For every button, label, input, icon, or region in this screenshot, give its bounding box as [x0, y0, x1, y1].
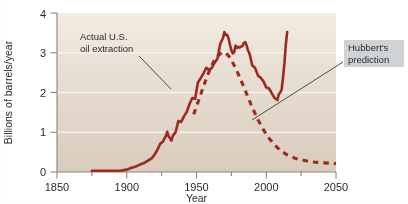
- x-tick-label: 2050: [324, 181, 348, 193]
- y-tick-label: 3: [40, 47, 46, 59]
- x-tick-label: 1900: [115, 181, 139, 193]
- oil-extraction-chart: 0 1 2 3 4 1850 1900 1950 2000 2050 Year …: [0, 0, 408, 204]
- y-tick-label: 4: [40, 8, 46, 20]
- x-tick-label: 1850: [45, 181, 69, 193]
- y-tick-label: 2: [40, 87, 46, 99]
- hubbert-prediction-annotation: Hubbert's prediction: [344, 40, 404, 67]
- actual-annotation-line2: oil extraction: [80, 43, 133, 54]
- actual-annotation-line1: Actual U.S.: [80, 31, 128, 42]
- y-tick-label: 1: [40, 126, 46, 138]
- actual-extraction-annotation: Actual U.S. oil extraction: [80, 31, 133, 54]
- y-tick-label: 0: [40, 166, 46, 178]
- hubbert-annotation-line1: Hubbert's: [348, 42, 389, 53]
- x-axis-title: Year: [186, 192, 208, 204]
- y-axis-title: Billions of barrels/year: [2, 40, 14, 144]
- hubbert-annotation-line2: prediction: [348, 54, 389, 65]
- x-tick-label: 2000: [254, 181, 278, 193]
